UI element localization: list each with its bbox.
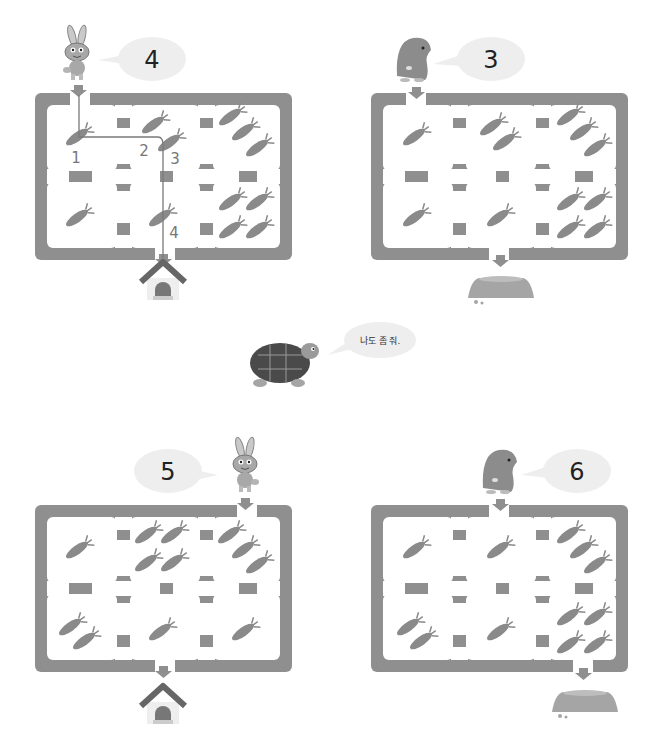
- bubble-number: 5: [160, 458, 175, 486]
- bubble-number: 6: [569, 458, 584, 486]
- turtle-graphic: 나도 좀 줘.: [240, 315, 430, 395]
- mole-mound-icon: [468, 276, 534, 305]
- turtle-section: 나도 좀 줘.: [240, 315, 430, 395]
- mole-icon: [483, 450, 517, 494]
- rabbit-icon: [63, 24, 89, 80]
- rabbit-icon: [233, 436, 259, 492]
- house-icon: [141, 262, 185, 300]
- turtle-speech-text: 나도 좀 줘.: [360, 336, 401, 346]
- step-label-2: 2: [139, 142, 149, 160]
- mole-icon: [397, 38, 431, 82]
- speech-bubble: 6: [521, 449, 611, 493]
- speech-bubble: 5: [134, 449, 218, 493]
- speech-bubble: 3: [433, 37, 525, 81]
- speech-bubble: 나도 좀 줘.: [328, 322, 416, 358]
- puzzle-4-graphic: 6: [331, 430, 662, 750]
- puzzle-3-graphic: 5: [0, 430, 331, 750]
- turtle-icon: [250, 343, 319, 387]
- puzzle-4: 6: [331, 430, 662, 750]
- mole-mound-icon: [552, 690, 618, 719]
- puzzle-2: 3: [331, 0, 662, 310]
- puzzle-1: 4: [0, 0, 331, 310]
- bubble-number: 3: [483, 46, 498, 74]
- step-label-4: 4: [169, 224, 179, 242]
- puzzle-3: 5: [0, 430, 331, 750]
- step-label-1: 1: [71, 149, 81, 167]
- bubble-number: 4: [144, 46, 159, 74]
- step-label-3: 3: [170, 150, 180, 168]
- puzzle-2-graphic: 3: [331, 0, 662, 310]
- puzzle-1-graphic: 4: [0, 0, 331, 310]
- speech-bubble: 4: [98, 37, 186, 81]
- house-icon: [141, 686, 185, 724]
